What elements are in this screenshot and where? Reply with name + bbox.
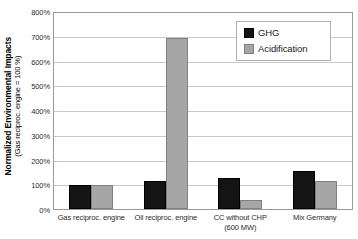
chart-legend: GHGAcidification: [236, 21, 331, 61]
legend-item-ghg[interactable]: GHG: [244, 27, 324, 38]
x-axis-tick-labels: Gas reciproc. engineOil reciproc. engine…: [54, 213, 352, 233]
bar-group: [129, 13, 204, 209]
normalized-environmental-impacts-chart: Normalized Environmental Impacts (Gas re…: [0, 0, 358, 239]
legend-item-label: GHG: [258, 27, 279, 38]
x-tick-label: Mix Germany: [278, 213, 353, 233]
gray-square-swatch: [244, 44, 254, 54]
black-square-swatch: [244, 28, 254, 38]
legend-item-label: Acidification: [258, 43, 307, 54]
y-tick-label: 700%: [5, 32, 53, 41]
y-tick-label: 400%: [5, 107, 53, 116]
y-tick-label: 0%: [5, 206, 53, 215]
bar-acidification-0[interactable]: [91, 185, 113, 210]
x-tick-label: Gas reciproc. engine: [54, 213, 129, 233]
bar-acidification-3[interactable]: [315, 181, 337, 209]
x-tick-label-line: Gas reciproc. engine: [54, 213, 129, 223]
x-tick-label-line: Mix Germany: [278, 213, 353, 223]
x-tick-label: CC without CHP(600 MW): [203, 213, 278, 233]
bar-ghg-3[interactable]: [293, 171, 315, 209]
bar-ghg-1[interactable]: [144, 181, 166, 209]
y-tick-label: 800%: [5, 8, 53, 17]
y-tick-label: 300%: [5, 131, 53, 140]
bar-ghg-2[interactable]: [218, 178, 240, 209]
y-tick-label: 200%: [5, 156, 53, 165]
x-tick-label-line: CC without CHP: [203, 213, 278, 223]
legend-item-acidification[interactable]: Acidification: [244, 43, 324, 54]
y-tick-label: 100%: [5, 181, 53, 190]
x-tick-label-line: (600 MW): [203, 223, 278, 233]
x-tick-label: Oil reciproc. engine: [129, 213, 204, 233]
x-tick-label-line: Oil reciproc. engine: [129, 213, 204, 223]
bar-ghg-0[interactable]: [69, 185, 91, 210]
bar-group: [54, 13, 129, 209]
y-tick-label: 600%: [5, 57, 53, 66]
bar-acidification-1[interactable]: [166, 38, 188, 210]
y-tick-label: 500%: [5, 82, 53, 91]
y-axis-tick-labels: 800%700%600%500%400%300%200%100%0%: [0, 12, 53, 210]
bar-acidification-2[interactable]: [240, 200, 262, 209]
